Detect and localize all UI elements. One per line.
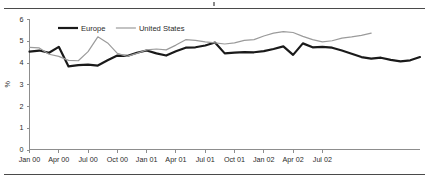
x-tick-label: Jul 00 (78, 155, 97, 164)
y-tick-label: 5 (20, 36, 24, 45)
x-tick-label: Jul 02 (313, 155, 332, 164)
plot-area: 0123456 Jan 00Apr 00Jul 00Oct 00Jan 01Ap… (0, 10, 429, 175)
y-axis-title: % (3, 81, 12, 88)
x-tick-label: Apr 01 (165, 155, 186, 164)
y-axis-ticks: 0123456 (20, 15, 30, 155)
y-tick-label: 3 (20, 80, 24, 89)
y-tick-label: 4 (20, 58, 24, 67)
y-tick-label: 1 (20, 123, 24, 132)
x-tick-label: Oct 01 (224, 155, 245, 164)
x-tick-label: Apr 02 (282, 155, 303, 164)
series-lines (30, 32, 421, 67)
x-tick-label: Jan 02 (253, 155, 275, 164)
top-horizontal-rule (4, 8, 425, 9)
x-tick-label: Oct 00 (107, 155, 128, 164)
line-chart: 0123456 Jan 00Apr 00Jul 00Oct 00Jan 01Ap… (0, 10, 429, 175)
x-tick-label: Apr 00 (48, 155, 69, 164)
series-line-europe (30, 42, 421, 66)
clipped-title-mark (213, 2, 215, 6)
x-tick-label: Jan 01 (136, 155, 158, 164)
x-tick-label: Jan 00 (19, 155, 41, 164)
x-tick-label: Jul 01 (196, 155, 215, 164)
chart-legend: EuropeUnited States (58, 24, 185, 33)
y-tick-label: 6 (20, 15, 24, 24)
legend-label: Europe (81, 24, 106, 33)
y-tick-label: 2 (20, 102, 24, 111)
figure-container: 0123456 Jan 00Apr 00Jul 00Oct 00Jan 01Ap… (0, 0, 429, 181)
x-axis-ticks: Jan 00Apr 00Jul 00Oct 00Jan 01Apr 01Jul … (19, 150, 332, 164)
y-tick-label: 0 (20, 145, 24, 154)
bottom-horizontal-rule (4, 174, 425, 175)
legend-label: United States (139, 24, 185, 33)
